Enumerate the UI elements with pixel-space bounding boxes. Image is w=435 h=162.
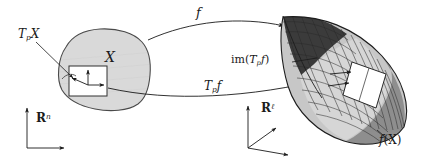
label-domain-x: X — [105, 50, 115, 64]
figure-canvas: TpX X f Tpf im(Tpf) f(X) Rn Rℓ — [0, 0, 435, 162]
label-image-of-differential: im(Tpf) — [231, 54, 269, 66]
label-differential-tpf: Tpf — [204, 80, 221, 93]
target-axis-horizontal — [248, 148, 288, 155]
map-f-arrow — [148, 21, 284, 40]
tangent-square-group — [62, 66, 107, 96]
surface-mesh-group — [281, 15, 407, 148]
label-ambient-target-space: Rℓ — [261, 102, 274, 114]
label-tangent-space-source: TpX — [18, 28, 39, 41]
label-map-f: f — [196, 6, 201, 19]
label-ambient-source-space: Rn — [36, 112, 51, 124]
target-axis-diagonal — [248, 128, 276, 148]
label-image-of-domain: f(X) — [379, 134, 401, 146]
